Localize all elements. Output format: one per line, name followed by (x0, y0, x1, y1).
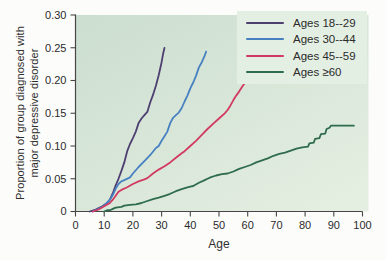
legend-item-ages-18-29: Ages 18--29 (246, 17, 367, 29)
legend-label: Ages ≥60 (293, 66, 342, 78)
x-tick-label: 70 (270, 219, 282, 231)
y-tick-label: 0 (60, 205, 66, 217)
x-tick-label: 10 (98, 219, 110, 231)
y-tick-label: 0.20 (45, 74, 66, 86)
legend-label: Ages 30--44 (293, 33, 356, 45)
y-tick-label: 0.05 (45, 173, 66, 185)
x-tick-label: 40 (184, 219, 196, 231)
legend-item-ages-60: Ages ≥60 (246, 66, 367, 78)
x-tick-label: 90 (328, 219, 340, 231)
x-tick-label: 20 (127, 219, 139, 231)
x-tick-label: 30 (155, 219, 167, 231)
legend-line-swatch (246, 71, 284, 73)
legend-item-ages-30-44: Ages 30--44 (246, 33, 367, 45)
legend-line-swatch (246, 38, 284, 40)
y-axis-title-line1: Proportion of group diagnosed with (13, 3, 27, 223)
legend-label: Ages 18--29 (293, 17, 356, 29)
x-tick-label: 100 (353, 219, 371, 231)
x-tick-label: 60 (242, 219, 254, 231)
x-axis-title: Age (208, 237, 229, 251)
legend: Ages 18--29Ages 30--44Ages 45--59Ages ≥6… (237, 11, 367, 84)
x-tick-label: 50 (213, 219, 225, 231)
y-axis-title: Proportion of group diagnosed with major… (13, 3, 41, 223)
y-tick-label: 0.10 (45, 140, 66, 152)
y-tick-label: 0.25 (45, 42, 66, 54)
y-tick-label: 0.30 (45, 9, 66, 21)
legend-line-swatch (246, 22, 284, 24)
x-tick-label: 80 (299, 219, 311, 231)
legend-item-ages-45-59: Ages 45--59 (246, 50, 367, 62)
y-tick-label: 0.15 (45, 107, 66, 119)
legend-line-swatch (246, 55, 284, 57)
depression-incidence-figure: 00.050.100.150.200.250.30010203040506070… (0, 0, 386, 260)
y-axis-title-line2: major depressive disorder (27, 3, 41, 223)
x-tick-label: 0 (72, 219, 78, 231)
legend-label: Ages 45--59 (293, 50, 356, 62)
